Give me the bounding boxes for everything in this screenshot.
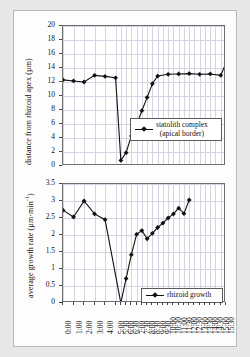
data-point-marker (224, 61, 225, 66)
x-axis-tick-mark (130, 302, 131, 305)
data-point-marker (62, 77, 65, 82)
series-statolith-complex (63, 26, 225, 165)
x-axis-tick-mark (125, 302, 126, 305)
x-axis-tick-label: 2:00 (86, 321, 94, 334)
data-point-marker (103, 74, 108, 79)
x-axis-tick-mark (188, 302, 189, 305)
y-axis-tick-label: 2 (51, 230, 55, 238)
x-axis-tick-mark (120, 302, 121, 305)
y-axis-tick-label: 2 (51, 147, 55, 155)
series-line (63, 200, 189, 302)
y-axis-tick-label: 3.5 (46, 179, 55, 187)
series-rhizoid-growth (63, 184, 225, 302)
legend-marker-icon-statolith (135, 126, 153, 134)
x-axis-tick-mark (172, 302, 173, 305)
y-axis-tick-label: 0 (51, 298, 55, 306)
data-point-marker (113, 75, 118, 80)
y-axis-tick-label: 1.5 (46, 247, 55, 255)
chart-bottom-plot-area (62, 183, 225, 302)
y-axis-tick-label: 3 (51, 196, 55, 204)
legend-bottom: rhizoid growth (141, 288, 223, 303)
y-axis-tick-label: 2.5 (46, 213, 55, 221)
x-axis-tick-label: 4:00 (107, 321, 115, 334)
data-point-marker (124, 276, 129, 281)
x-axis-tick-mark (94, 302, 95, 305)
y-axis-tick-label: 20 (48, 21, 56, 29)
legend-marker-icon-rhizoid (146, 291, 164, 299)
x-axis-tick-mark (141, 302, 142, 305)
x-axis-tick-mark (183, 302, 184, 305)
x-axis-tick-mark (209, 302, 210, 305)
y-axis-label-bottom-units: (µm·min-1) (26, 193, 35, 230)
chart-top-plot-area (62, 25, 225, 165)
data-point-marker (208, 72, 213, 77)
x-axis-tick-mark (83, 302, 84, 305)
x-axis-tick-mark (62, 302, 63, 305)
x-axis-tick-mark (225, 302, 226, 305)
y-axis-tick-label: 6 (51, 119, 55, 127)
y-axis-tick-label: 10 (48, 91, 56, 99)
y-axis-tick-label: 0.5 (46, 281, 55, 289)
y-axis-label-top-text: distance from rhizoid apex (µm) (24, 58, 33, 165)
data-point-marker (71, 79, 76, 84)
x-axis-tick-mark (214, 302, 215, 305)
x-axis-tick-mark (151, 302, 152, 305)
legend-label-rhizoid: rhizoid growth (167, 291, 211, 300)
x-axis-tick-mark (104, 302, 105, 305)
x-axis-tick-mark (204, 302, 205, 305)
data-point-marker (166, 72, 171, 77)
data-point-marker (218, 73, 223, 78)
data-point-marker (187, 71, 192, 76)
legend-label-statolith: statolith complex (apical border) (156, 121, 208, 138)
x-axis-tick-mark (220, 302, 221, 305)
data-point-marker (197, 72, 202, 77)
legend-label-statolith-line1: statolith complex (156, 120, 208, 129)
data-point-marker (103, 217, 108, 222)
data-point-marker (129, 252, 134, 257)
y-axis-tick-label: 16 (48, 49, 56, 57)
legend-label-rhizoid-line1: rhizoid growth (167, 290, 211, 299)
series-line (63, 63, 225, 160)
x-axis-tick-mark (146, 302, 147, 305)
y-axis-label-bottom: average growth rate (µm·min-1) (24, 193, 35, 298)
y-axis-tick-label: 4 (51, 133, 55, 141)
data-point-marker (176, 72, 181, 77)
legend-label-statolith-line2: (apical border) (156, 130, 208, 139)
x-axis-tick-mark (199, 302, 200, 305)
y-axis-tick-label: 1 (51, 264, 55, 272)
x-axis-tick-mark (178, 302, 179, 305)
y-axis-label-top: distance from rhizoid apex (µm) (24, 58, 33, 165)
x-axis-tick-mark (115, 302, 116, 305)
y-axis-label-bottom-text: average growth rate (26, 233, 35, 298)
y-axis-tick-label: 14 (48, 63, 56, 71)
x-axis-tick-mark (73, 302, 74, 305)
x-axis-tick-mark (167, 302, 168, 305)
y-axis-label-bottom-exponent: -1 (24, 196, 30, 201)
data-point-marker (139, 108, 144, 113)
x-axis-tick-label: 15:30 (228, 317, 236, 334)
x-axis-tick-mark (157, 302, 158, 305)
figure-container: distance from rhizoid apex (µm) 02468101… (13, 10, 237, 347)
x-axis-tick-mark (193, 302, 194, 305)
y-axis-tick-label: 18 (48, 35, 56, 43)
x-axis-tick-label: 3:00 (97, 321, 105, 334)
x-axis-tick-label: 0:00 (65, 321, 73, 334)
x-axis-tick-mark (136, 302, 137, 305)
x-axis-tick-label: 1:00 (76, 321, 84, 334)
x-axis-tick-mark (162, 302, 163, 305)
y-axis-tick-label: 12 (48, 77, 56, 85)
legend-top: statolith complex (apical border) (130, 118, 222, 141)
data-point-marker (187, 198, 192, 203)
data-point-marker (145, 95, 150, 100)
y-axis-tick-label: 8 (51, 105, 55, 113)
y-axis-tick-label: 0 (51, 161, 55, 169)
y-axis-tick-mark (59, 165, 62, 166)
